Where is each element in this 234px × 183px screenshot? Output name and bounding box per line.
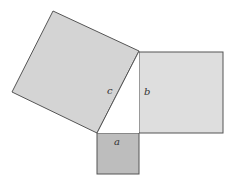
label-a: a [114, 137, 120, 147]
square-b [139, 52, 223, 133]
label-c: c [107, 86, 113, 96]
label-b: b [144, 87, 150, 97]
pythagoras-diagram [0, 0, 234, 183]
